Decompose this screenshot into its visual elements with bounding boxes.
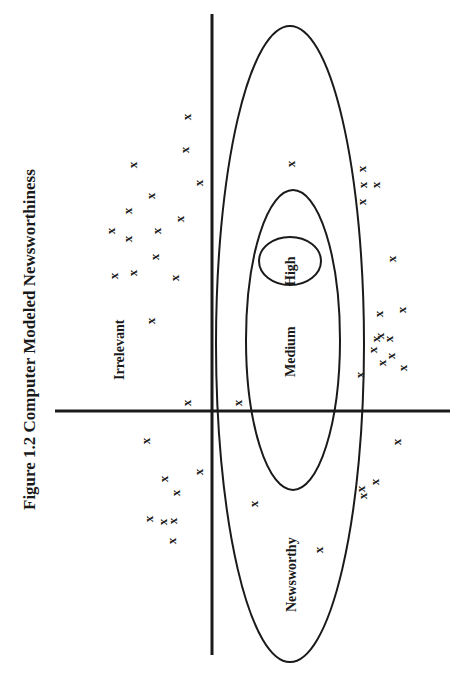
- high-label: High: [283, 256, 299, 286]
- newsworthiness-diagram: [0, 0, 466, 674]
- data-point-mark: x: [121, 233, 133, 245]
- data-point-mark: x: [121, 205, 133, 217]
- newsworthy-label: Newsworthy: [284, 537, 300, 612]
- data-point-mark: x: [247, 498, 259, 510]
- data-point-mark: x: [368, 476, 380, 488]
- data-point-mark: x: [150, 225, 162, 237]
- data-point-mark: x: [126, 159, 138, 171]
- data-point-mark: x: [284, 158, 296, 170]
- figure-canvas: Figure 1.2 Computer Modeled Newsworthine…: [0, 0, 466, 674]
- medium-label: Medium: [283, 326, 299, 377]
- data-point-mark: x: [126, 267, 138, 279]
- data-point-mark: x: [356, 179, 368, 191]
- data-point-mark: x: [356, 490, 368, 502]
- irrelevant-label: Irrelevant: [112, 320, 128, 380]
- data-point-mark: x: [144, 190, 156, 202]
- data-point-mark: x: [104, 225, 116, 237]
- data-point-mark: x: [169, 487, 181, 499]
- data-point-mark: x: [173, 213, 185, 225]
- data-point-mark: x: [355, 196, 367, 208]
- data-point-mark: x: [157, 473, 169, 485]
- data-point-mark: x: [148, 251, 160, 263]
- data-point-mark: x: [390, 436, 402, 448]
- data-point-mark: x: [372, 308, 384, 320]
- data-point-mark: x: [107, 270, 119, 282]
- data-point-mark: x: [355, 163, 367, 175]
- data-point-mark: x: [142, 513, 154, 525]
- data-point-mark: x: [144, 315, 156, 327]
- data-point-mark: x: [395, 304, 407, 316]
- data-point-mark: x: [156, 516, 168, 528]
- data-point-mark: x: [231, 397, 243, 409]
- data-point-mark: x: [396, 362, 408, 374]
- data-point-mark: x: [353, 369, 365, 381]
- data-point-mark: x: [180, 111, 192, 123]
- data-point-mark: x: [180, 397, 192, 409]
- data-point-mark: x: [192, 466, 204, 478]
- data-point-mark: x: [192, 177, 204, 189]
- figure-title: Figure 1.2 Computer Modeled Newsworthine…: [20, 169, 40, 510]
- data-point-mark: x: [369, 179, 381, 191]
- data-point-mark: x: [375, 357, 387, 369]
- data-point-mark: x: [168, 272, 180, 284]
- data-point-mark: x: [178, 144, 190, 156]
- data-point-mark: x: [165, 535, 177, 547]
- data-point-mark: x: [385, 253, 397, 265]
- data-point-mark: x: [312, 544, 324, 556]
- data-point-mark: x: [382, 333, 394, 345]
- data-point-mark: x: [366, 344, 378, 356]
- data-point-mark: x: [139, 435, 151, 447]
